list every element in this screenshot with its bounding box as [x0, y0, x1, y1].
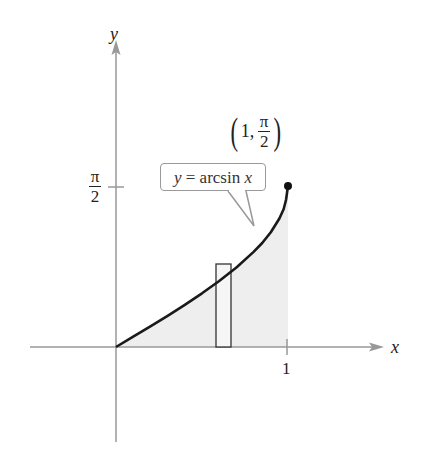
y-tick-label: π 2 — [89, 168, 101, 205]
endpoint-dot — [284, 182, 292, 190]
x-tick-label: 1 — [282, 359, 291, 379]
callout-eq: = arcsin — [182, 168, 245, 187]
y-tick-denominator: 2 — [91, 188, 100, 205]
callout-x: x — [244, 168, 252, 187]
left-paren: ( — [231, 112, 239, 150]
endpoint-x: 1, — [241, 121, 255, 142]
graph-canvas — [0, 0, 423, 452]
callout-y: y — [174, 168, 182, 187]
y-tick-numerator: π — [91, 168, 100, 185]
shaded-region — [116, 186, 288, 347]
equation-callout: y = arcsin x — [160, 163, 266, 191]
x-axis-label: x — [391, 337, 399, 358]
right-paren: ) — [274, 112, 282, 150]
y-axis-label: y — [110, 24, 118, 45]
callout-tail — [228, 191, 254, 226]
endpoint-label: ( 1, π 2 ) — [228, 108, 284, 154]
endpoint-y-denominator: 2 — [260, 133, 269, 150]
endpoint-y: π 2 — [258, 113, 270, 150]
endpoint-y-numerator: π — [260, 113, 269, 130]
callout-tail-joint — [229, 189, 245, 192]
